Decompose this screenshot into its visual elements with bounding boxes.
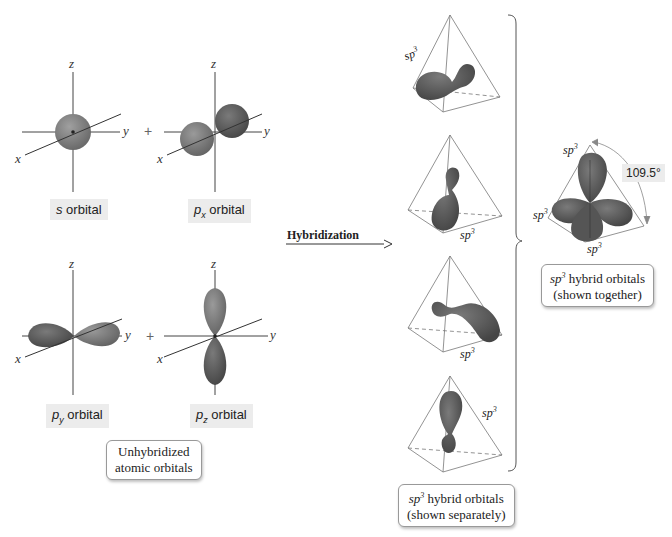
y-axis-label: y — [270, 327, 276, 343]
sp3-label: sp3 — [533, 207, 548, 223]
sp3-lobe-4 — [439, 391, 462, 453]
sp3-label: sp3 — [587, 241, 602, 257]
sp3-label: sp3 — [460, 346, 475, 362]
z-axis-label: z — [69, 56, 74, 72]
py-orbital-label: py orbital — [46, 404, 109, 428]
sp3-label: sp3 — [563, 142, 578, 158]
x-axis-label: x — [157, 351, 163, 367]
s-orbital-label: s orbital — [50, 199, 108, 220]
x-axis-label: x — [15, 351, 21, 367]
sp3-label: sp3 — [460, 227, 475, 243]
pz-orbital-label: pz orbital — [190, 404, 253, 428]
sp3-label: sp3 — [482, 405, 497, 421]
sp3-lobe-2 — [432, 168, 460, 231]
z-axis-label: z — [69, 256, 74, 272]
py-orbital-graphic — [22, 270, 122, 395]
curly-brace — [508, 15, 522, 471]
sp3-hybridization-diagram: z y x + z y x z y x + z y x s orbital px… — [0, 0, 672, 537]
px-orbital-graphic — [164, 72, 262, 192]
separate-caption: sp3 hybrid orbitals (shown separately) — [398, 484, 515, 527]
bond-angle-label: 109.5° — [622, 164, 665, 182]
x-axis-label: x — [15, 151, 21, 167]
together-caption: sp3 hybrid orbitals (shown together) — [541, 264, 654, 307]
z-axis-label: z — [211, 56, 216, 72]
y-axis-label: y — [123, 123, 129, 139]
y-axis-label: y — [264, 123, 270, 139]
unhybridized-caption: Unhybridized atomic orbitals — [106, 440, 202, 480]
pz-orbital-graphic — [164, 270, 268, 395]
plus-sign: + — [144, 123, 152, 139]
px-orbital-label: px orbital — [188, 199, 251, 223]
hybridization-label: Hybridization — [287, 228, 359, 243]
plus-sign: + — [146, 328, 154, 344]
sp3-lobe-1 — [416, 64, 475, 100]
z-axis-label: z — [211, 256, 216, 272]
sp3-lobe-3 — [432, 302, 500, 343]
x-axis-label: x — [157, 151, 163, 167]
y-axis-label: y — [125, 327, 131, 343]
s-orbital-graphic — [22, 72, 121, 192]
